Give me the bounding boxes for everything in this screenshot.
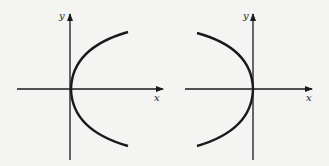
x-axis-label: x (154, 92, 160, 103)
diagram-canvas: y x y x (0, 0, 329, 166)
y-axis-label: y (242, 10, 249, 21)
y-axis-label: y (58, 10, 65, 21)
x-axis-label: x (306, 92, 312, 103)
panel-right: y x (185, 10, 312, 160)
panel-left: y x (17, 10, 163, 160)
figure: y x y x (0, 0, 329, 166)
